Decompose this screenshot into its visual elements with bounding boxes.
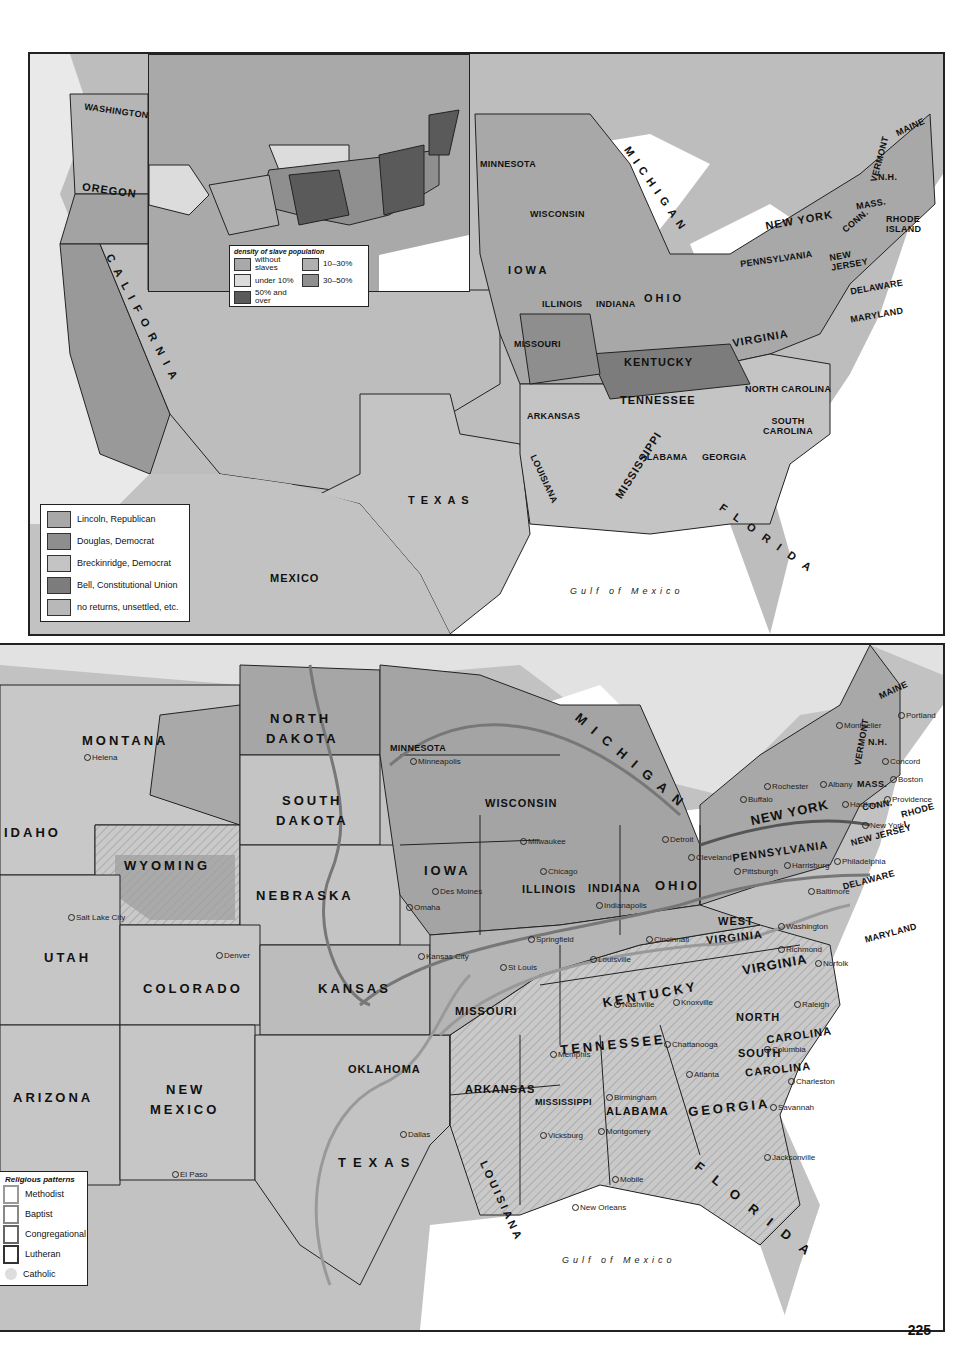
legend-swatch bbox=[234, 258, 251, 271]
city-denver: Denver bbox=[216, 951, 250, 960]
religious-patterns-map: MONTANA NORTH DAKOTA SOUTH DAKOTA MINNES… bbox=[0, 643, 945, 1332]
city-springfield: Springfield bbox=[528, 935, 574, 944]
label-idaho: IDAHO bbox=[4, 825, 61, 840]
city-st-louis: St Louis bbox=[500, 963, 537, 972]
legend-item-bell: Bell, Constitutional Union bbox=[47, 574, 183, 596]
legend-item-no-returns: no returns, unsettled, etc. bbox=[47, 596, 183, 618]
city-pittsburgh: Pittsburgh bbox=[734, 867, 778, 876]
label-minnesota: MINNESOTA bbox=[390, 743, 446, 753]
city-rochester: Rochester bbox=[764, 782, 808, 791]
city-nashville: Nashville bbox=[614, 1000, 654, 1009]
label-south-carolina: SOUTH CAROLINA bbox=[758, 416, 818, 436]
label-kentucky: KENTUCKY bbox=[624, 356, 693, 368]
label-montana: MONTANA bbox=[82, 733, 168, 748]
label-new-mexico-2: MEXICO bbox=[150, 1102, 219, 1117]
city-birmingham: Birmingham bbox=[606, 1093, 657, 1102]
label-minnesota: MINNESOTA bbox=[480, 159, 536, 169]
label-oklahoma: OKLAHOMA bbox=[348, 1063, 421, 1075]
legend-swatch bbox=[234, 291, 251, 304]
label-indiana: INDIANA bbox=[588, 882, 641, 894]
legend-item-congregational: Congregational bbox=[3, 1224, 83, 1244]
city-omaha: Omaha bbox=[406, 903, 440, 912]
city-milwaukee: Milwaukee bbox=[520, 837, 566, 846]
legend-swatch bbox=[5, 1268, 17, 1280]
label-indiana: INDIANA bbox=[596, 299, 636, 309]
legend-swatch bbox=[3, 1225, 19, 1244]
legend-swatch bbox=[3, 1245, 19, 1264]
label-arkansas: ARKANSAS bbox=[465, 1083, 535, 1095]
page-number: 225 bbox=[908, 1322, 931, 1338]
label-ohio: OHIO bbox=[644, 292, 684, 304]
label-mexico: MEXICO bbox=[270, 572, 319, 584]
city-vicksburg: Vicksburg bbox=[540, 1131, 583, 1140]
label-kansas: KANSAS bbox=[318, 981, 391, 996]
city-atlanta: Atlanta bbox=[686, 1070, 719, 1079]
label-gulf-of-mexico: Gulf of Mexico bbox=[570, 586, 684, 596]
legend-swatch bbox=[3, 1205, 19, 1224]
city-new-orleans: New Orleans bbox=[572, 1203, 626, 1212]
label-wyoming: WYOMING bbox=[124, 858, 210, 873]
city-providence: Providence bbox=[884, 795, 932, 804]
legend-swatch bbox=[47, 577, 71, 594]
label-tennessee: TENNESSEE bbox=[620, 394, 696, 406]
legend-item-breckinridge: Breckinridge, Democrat bbox=[47, 552, 183, 574]
legend-item-catholic: Catholic bbox=[3, 1264, 83, 1284]
label-south-dakota-1: SOUTH bbox=[282, 793, 343, 808]
label-north-dakota-1: NORTH bbox=[270, 711, 331, 726]
city-cincinnati: Cincinnati bbox=[646, 935, 689, 944]
legend-swatch bbox=[302, 274, 319, 287]
label-wisconsin: WISCONSIN bbox=[485, 797, 558, 809]
legend-item-50-plus: 50% and over bbox=[234, 289, 296, 305]
city-chicago: Chicago bbox=[540, 867, 577, 876]
label-alabama: ALABAMA bbox=[606, 1105, 669, 1117]
city-boston: Boston bbox=[890, 775, 923, 784]
label-nebraska: NEBRASKA bbox=[256, 888, 354, 903]
legend-swatch bbox=[302, 258, 319, 271]
label-alabama: ALABAMA bbox=[640, 452, 688, 462]
legend-item-lutheran: Lutheran bbox=[3, 1244, 83, 1264]
label-gulf-of-mexico: Gulf of Mexico bbox=[562, 1255, 676, 1265]
legend-item-10-30: 10–30% bbox=[302, 256, 364, 272]
label-iowa: IOWA bbox=[424, 863, 471, 878]
city-chattanooga: Chattanooga bbox=[664, 1040, 718, 1049]
city-montpelier: Montpelier bbox=[836, 721, 881, 730]
city-philadelphia: Philadelphia bbox=[834, 857, 886, 866]
legend-swatch bbox=[47, 511, 71, 528]
legend-swatch bbox=[3, 1185, 19, 1204]
city-indianapolis: Indianapolis bbox=[596, 901, 647, 910]
label-illinois: ILLINOIS bbox=[522, 883, 576, 895]
election-1860-map: density of slave population without slav… bbox=[28, 52, 945, 636]
label-mississippi: MISSISSIPPI bbox=[535, 1097, 592, 1107]
city-richmond: Richmond bbox=[778, 945, 822, 954]
label-ohio: OHIO bbox=[655, 878, 700, 893]
city-new-york: New York bbox=[862, 821, 904, 830]
legend-swatch bbox=[47, 533, 71, 550]
slave-density-legend: density of slave population without slav… bbox=[229, 245, 369, 307]
label-colorado: COLORADO bbox=[143, 981, 243, 996]
religious-legend-title: Religious patterns bbox=[5, 1175, 83, 1184]
label-missouri: MISSOURI bbox=[455, 1005, 517, 1017]
city-minneapolis: Minneapolis bbox=[410, 757, 461, 766]
label-north-dakota-2: DAKOTA bbox=[266, 731, 339, 746]
city-jacksonville: Jacksonville bbox=[764, 1153, 815, 1162]
city-cleveland: Cleveland bbox=[688, 853, 732, 862]
label-new-mexico-1: NEW bbox=[166, 1082, 205, 1097]
label-georgia: GEORGIA bbox=[702, 452, 747, 462]
city-raleigh: Raleigh bbox=[794, 1000, 829, 1009]
label-wisconsin: WISCONSIN bbox=[530, 209, 585, 219]
city-charleston: Charleston bbox=[788, 1077, 835, 1086]
slave-density-legend-title: density of slave population bbox=[234, 248, 364, 256]
label-missouri: MISSOURI bbox=[514, 339, 561, 349]
city-savannah: Savannah bbox=[770, 1103, 814, 1112]
label-south-dakota-2: DAKOTA bbox=[276, 813, 349, 828]
city-knoxville: Knoxville bbox=[673, 998, 713, 1007]
election-legend: Lincoln, Republican Douglas, Democrat Br… bbox=[40, 504, 190, 622]
label-utah: UTAH bbox=[44, 950, 91, 965]
city-mobile: Mobile bbox=[612, 1175, 644, 1184]
city-detroit: Detroit bbox=[662, 835, 694, 844]
label-west-virginia-1: WEST bbox=[718, 915, 754, 927]
city-washington: Washington bbox=[778, 922, 828, 931]
religious-patterns-legend: Religious patterns Methodist Baptist Con… bbox=[0, 1171, 88, 1286]
label-iowa: IOWA bbox=[508, 264, 549, 276]
city-buffalo: Buffalo bbox=[740, 795, 773, 804]
